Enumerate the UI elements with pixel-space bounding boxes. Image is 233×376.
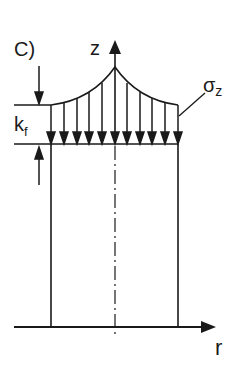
z-axis xyxy=(109,40,121,144)
arrow-down-icon xyxy=(35,92,43,104)
z-axis-arrowhead-icon xyxy=(109,40,121,54)
kf-label: kf xyxy=(14,113,28,139)
z-axis-label: z xyxy=(90,37,100,59)
r-axis-arrowhead-icon xyxy=(201,321,216,333)
sigma-z-leader-line xyxy=(179,93,205,116)
stress-distribution-diagram: C) z kf σz xyxy=(0,0,233,376)
panel-label: C) xyxy=(14,38,35,60)
sigma-z-label: σz xyxy=(203,74,222,99)
arrow-up-icon xyxy=(35,147,43,159)
r-axis-label: r xyxy=(215,335,222,360)
kf-dimension-arrows xyxy=(35,66,43,185)
